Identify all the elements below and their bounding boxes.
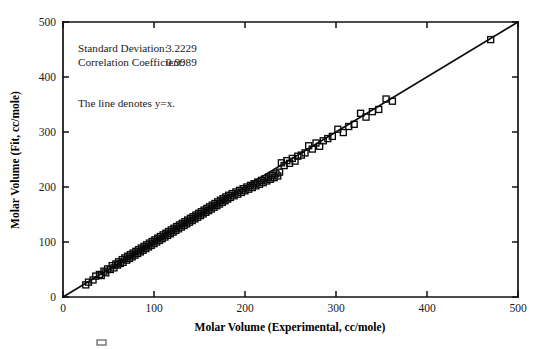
x-tick-label: 200 <box>236 302 254 314</box>
x-axis-tick-labels: 0100200300400500 <box>60 302 527 314</box>
y-axis-ticks <box>63 22 69 297</box>
y-tick-label: 100 <box>39 236 57 248</box>
y-axis-title: Molar Volume (Fit, cc/mole) <box>9 91 22 229</box>
x-tick-label: 500 <box>509 302 527 314</box>
std-dev-value: 3.2229 <box>166 42 197 54</box>
x-tick-label: 0 <box>60 302 66 314</box>
scan-artifact-mark <box>97 340 106 345</box>
right-axis-ticks <box>512 22 518 297</box>
parity-plot: 0100200300400500 0100200300400500 Molar … <box>0 0 547 349</box>
x-tick-label: 400 <box>418 302 436 314</box>
reference-line-note: The line denotes y=x. <box>78 97 175 109</box>
x-tick-label: 300 <box>327 302 345 314</box>
x-axis-title: Molar Volume (Experimental, cc/mole) <box>195 321 386 334</box>
y-tick-label: 500 <box>39 16 57 28</box>
y-axis-tick-labels: 0100200300400500 <box>39 16 57 303</box>
std-dev-label: Standard Deviation: <box>78 42 168 54</box>
y-tick-label: 200 <box>39 181 57 193</box>
chart-page: 0100200300400500 0100200300400500 Molar … <box>0 0 547 349</box>
y-tick-label: 0 <box>50 291 56 303</box>
correlation-value: 0.9989 <box>166 56 197 68</box>
y-tick-label: 300 <box>39 126 57 138</box>
y-tick-label: 400 <box>39 71 57 83</box>
x-tick-label: 100 <box>145 302 163 314</box>
